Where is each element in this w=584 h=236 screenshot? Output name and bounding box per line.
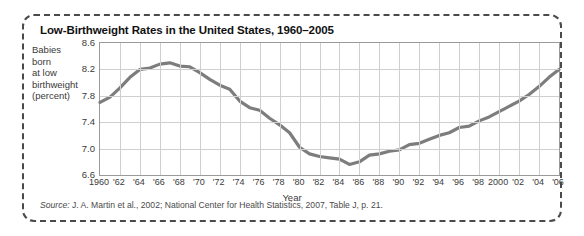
gridline-vertical: [439, 43, 440, 175]
x-tick-label: '86: [353, 177, 365, 187]
x-tick-label: '88: [373, 177, 385, 187]
x-tick-label: '66: [153, 177, 165, 187]
gridline-vertical: [280, 43, 281, 175]
figure-container: Low-Birthweight Rates in the United Stat…: [22, 14, 562, 222]
y-tick-label: 8.2: [82, 63, 95, 74]
y-tick-label: 7.0: [82, 142, 95, 153]
plot-area: [99, 42, 560, 176]
x-tick-label: 1960: [89, 177, 109, 187]
gridline-vertical: [539, 43, 540, 175]
x-axis-ticks: 1960'62'64'66'68'70'72'74'76'78'80'82'84…: [99, 177, 558, 190]
gridline-vertical: [120, 43, 121, 175]
gridline-vertical: [240, 43, 241, 175]
gridline-vertical: [479, 43, 480, 175]
x-tick-label: '98: [472, 177, 484, 187]
gridline-vertical: [320, 43, 321, 175]
source-text: J. A. Martin et al., 2002; National Cent…: [70, 200, 383, 210]
gridline-vertical: [220, 43, 221, 175]
gridline-vertical: [519, 43, 520, 175]
gridline-vertical: [379, 43, 380, 175]
gridline-vertical: [339, 43, 340, 175]
x-tick-label: 2000: [488, 177, 508, 187]
y-tick-label: 7.4: [82, 116, 95, 127]
x-tick-label: '72: [213, 177, 225, 187]
x-tick-label: '76: [253, 177, 265, 187]
gridline-horizontal: [100, 69, 559, 70]
gridline-vertical: [300, 43, 301, 175]
x-tick-label: '68: [173, 177, 185, 187]
x-tick-label: '02: [512, 177, 524, 187]
x-tick-label: '80: [293, 177, 305, 187]
gridline-vertical: [260, 43, 261, 175]
source-note: Source: J. A. Martin et al., 2002; Natio…: [40, 200, 383, 210]
x-tick-label: '92: [412, 177, 424, 187]
y-axis-ticks: 6.67.07.47.88.28.6: [62, 42, 95, 174]
gridline-vertical: [399, 43, 400, 175]
x-tick-label: '90: [392, 177, 404, 187]
x-tick-label: '84: [333, 177, 345, 187]
gridline-vertical: [419, 43, 420, 175]
x-tick-label: '74: [233, 177, 245, 187]
gridline-horizontal: [100, 149, 559, 150]
x-tick-label: '94: [432, 177, 444, 187]
x-tick-label: '78: [273, 177, 285, 187]
gridline-vertical: [459, 43, 460, 175]
gridline-vertical: [359, 43, 360, 175]
y-tick-label: 8.6: [82, 37, 95, 48]
gridline-horizontal: [100, 96, 559, 97]
x-tick-label: '64: [133, 177, 145, 187]
chart-title: Low-Birthweight Rates in the United Stat…: [40, 24, 334, 36]
x-tick-label: '96: [452, 177, 464, 187]
gridline-vertical: [140, 43, 141, 175]
x-tick-label: '82: [313, 177, 325, 187]
source-label: Source:: [40, 200, 70, 210]
gridline-vertical: [160, 43, 161, 175]
low-birthweight-line-series: [100, 43, 559, 175]
y-tick-label: 7.8: [82, 89, 95, 100]
x-tick-label: '62: [113, 177, 125, 187]
gridline-vertical: [499, 43, 500, 175]
x-tick-label: '04: [532, 177, 544, 187]
gridline-vertical: [180, 43, 181, 175]
gridline-horizontal: [100, 122, 559, 123]
x-tick-label: '70: [193, 177, 205, 187]
x-tick-label: '06: [552, 177, 564, 187]
gridline-vertical: [200, 43, 201, 175]
